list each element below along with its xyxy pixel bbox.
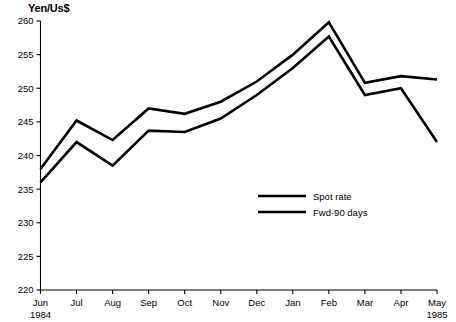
line-chart-plot: 220225230235240245250255260 Jun1984JulAu… xyxy=(0,0,456,322)
x-tick-year-label: 1984 xyxy=(30,309,51,320)
y-axis-tick-labels: 220225230235240245250255260 xyxy=(18,15,41,295)
x-tick-label: Aug xyxy=(104,297,121,308)
chart-legend: Spot rateFwd-90 days xyxy=(258,191,368,218)
x-tick-label: Nov xyxy=(212,297,229,308)
x-tick-label: Mar xyxy=(357,297,373,308)
x-tick-year-label: 1985 xyxy=(426,309,447,320)
x-tick-label: Dec xyxy=(248,297,265,308)
x-axis-tick-labels: Jun1984JulAugSepOctNovDecJanFebMarAprMay… xyxy=(30,290,448,320)
x-tick-label: Sep xyxy=(140,297,157,308)
x-tick-label: Jul xyxy=(70,297,82,308)
chart-series-lines xyxy=(41,22,438,182)
chart-axes xyxy=(41,21,438,290)
y-tick-label: 230 xyxy=(18,217,34,228)
legend-label: Fwd-90 days xyxy=(313,207,368,218)
y-tick-label: 255 xyxy=(18,49,34,60)
x-tick-label: Apr xyxy=(394,297,409,308)
chart-container: Yen/Us$ 220225230235240245250255260 Jun1… xyxy=(0,0,456,322)
axis-lines xyxy=(41,21,438,290)
legend-label: Spot rate xyxy=(313,191,352,202)
y-tick-label: 235 xyxy=(18,184,34,195)
y-tick-label: 225 xyxy=(18,251,34,262)
y-tick-label: 260 xyxy=(18,15,34,26)
x-tick-label: May xyxy=(428,297,446,308)
y-tick-label: 245 xyxy=(18,116,34,127)
y-tick-label: 240 xyxy=(18,150,34,161)
y-tick-label: 250 xyxy=(18,83,34,94)
series-line xyxy=(41,36,438,182)
x-tick-label: Feb xyxy=(321,297,337,308)
x-tick-label: Jun xyxy=(33,297,48,308)
series-line xyxy=(41,22,438,169)
x-tick-label: Jan xyxy=(285,297,300,308)
x-tick-label: Oct xyxy=(177,297,192,308)
y-tick-label: 220 xyxy=(18,284,34,295)
